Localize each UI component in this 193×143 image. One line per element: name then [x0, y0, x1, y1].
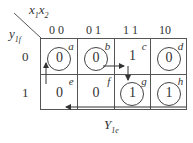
transition-arrows — [0, 0, 193, 143]
map-title: Y1e — [104, 118, 119, 135]
